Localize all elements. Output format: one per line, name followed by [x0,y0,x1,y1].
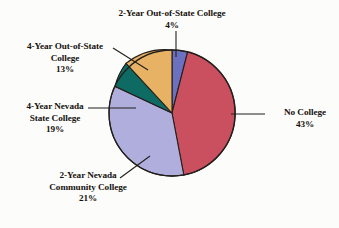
pie-label-2-year-out-of-state: 2-Year Out-of-State College 4% [92,8,252,31]
pie-label-4-year-nevada-state: 4-Year Nevada State College 19% [3,101,107,136]
pie-chart-figure: 2-Year Out-of-State College 4% 4-Year Ou… [0,0,339,228]
pie-label-percent: 19% [3,124,107,136]
pie-label-2-year-nevada-community: 2-Year Nevada Community College 21% [22,170,154,205]
pie-label-text: 2-Year Out-of-State College [118,8,225,18]
pie-label-no-college: No College 43% [272,107,338,130]
pie-label-percent: 43% [272,119,338,131]
pie-label-text-line2: State College [30,113,81,123]
pie-label-text-line2: College [51,53,80,63]
pie-label-text-line1: 4-Year Nevada [26,101,83,111]
pie-label-text-line1: 2-Year Nevada [59,170,116,180]
pie-label-percent: 4% [92,20,252,32]
pie-label-text-line2: Community College [49,182,127,192]
pie-label-percent: 13% [6,64,124,76]
pie-label-text: No College [284,107,326,117]
pie-label-text-line1: 4-Year Out-of-State [27,41,103,51]
pie-label-4-year-out-of-state: 4-Year Out-of-State College 13% [6,41,124,76]
pie-label-percent: 21% [22,193,154,205]
